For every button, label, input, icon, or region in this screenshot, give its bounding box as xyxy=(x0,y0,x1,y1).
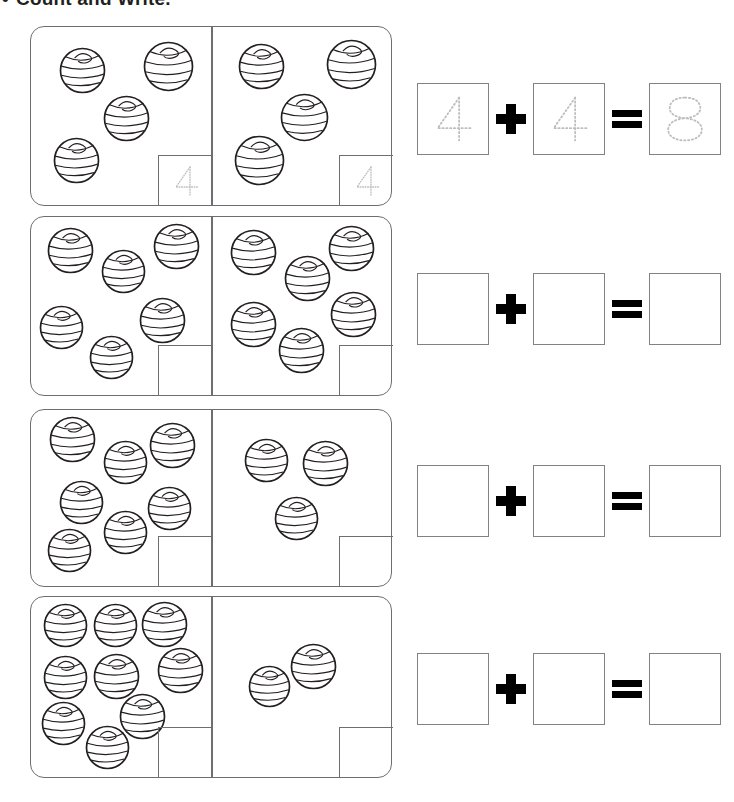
domino-count-input-left[interactable] xyxy=(158,345,212,395)
ball-icon xyxy=(103,440,148,485)
addend-2-input[interactable] xyxy=(533,83,605,155)
domino-half-right xyxy=(212,597,393,777)
ball-icon xyxy=(278,327,325,374)
addend-2-input[interactable] xyxy=(533,465,605,537)
ball-icon xyxy=(284,255,331,302)
ball-icon xyxy=(326,39,377,90)
domino-half-left xyxy=(31,217,212,395)
sum-input[interactable] xyxy=(649,273,721,345)
ball-icon xyxy=(53,137,100,184)
domino-half-right xyxy=(212,217,393,395)
ball-icon xyxy=(302,440,349,487)
ball-icon xyxy=(101,249,146,294)
ball-icon xyxy=(330,291,377,338)
ball-icon xyxy=(59,480,104,525)
domino-card xyxy=(30,409,392,587)
equals-icon xyxy=(605,490,649,512)
domino-card xyxy=(30,26,392,206)
ball-icon xyxy=(244,438,289,483)
domino-half-right xyxy=(212,410,393,586)
ball-icon xyxy=(147,486,192,531)
addition-equation xyxy=(417,653,721,725)
domino-divider xyxy=(211,27,213,205)
plus-icon xyxy=(489,674,533,704)
ball-icon xyxy=(43,603,88,648)
domino-divider xyxy=(211,597,213,777)
addend-2-input[interactable] xyxy=(533,653,605,725)
ball-icon xyxy=(230,301,277,348)
ball-icon xyxy=(234,135,285,186)
domino-half-left xyxy=(31,27,212,205)
ball-icon xyxy=(49,416,96,463)
ball-icon xyxy=(149,422,196,469)
ball-icon xyxy=(103,510,148,555)
equals-icon xyxy=(605,298,649,320)
plus-icon xyxy=(489,486,533,516)
ball-icon xyxy=(248,665,291,708)
domino-count-input-left[interactable] xyxy=(158,155,212,205)
ball-icon xyxy=(47,227,94,274)
ball-icon xyxy=(39,305,84,350)
ball-icon xyxy=(47,528,92,573)
ball-icon xyxy=(157,647,204,694)
domino-half-left xyxy=(31,597,212,777)
ball-icon xyxy=(328,225,375,272)
domino-card xyxy=(30,216,392,396)
domino-count-input-left[interactable] xyxy=(158,536,212,586)
domino-half-right xyxy=(212,27,393,205)
ball-icon xyxy=(93,603,138,648)
plus-icon xyxy=(489,294,533,324)
ball-icon xyxy=(230,229,277,276)
ball-icon xyxy=(89,335,134,380)
ball-icon xyxy=(139,297,186,344)
addend-1-input[interactable] xyxy=(417,465,489,537)
ball-icon xyxy=(85,725,130,770)
domino-half-left xyxy=(31,410,212,586)
addend-1-input[interactable] xyxy=(417,83,489,155)
ball-icon xyxy=(153,223,200,270)
equals-icon xyxy=(605,678,649,700)
ball-icon xyxy=(103,95,150,142)
domino-divider xyxy=(211,217,213,395)
ball-icon xyxy=(238,43,285,90)
ball-icon xyxy=(43,655,88,700)
equals-icon xyxy=(605,108,649,130)
domino-card xyxy=(30,596,392,778)
domino-count-input-left[interactable] xyxy=(158,727,212,777)
ball-icon xyxy=(59,47,106,94)
domino-count-input-right[interactable] xyxy=(339,727,393,777)
sum-input[interactable] xyxy=(649,83,721,155)
ball-icon xyxy=(274,496,319,541)
domino-count-input-right[interactable] xyxy=(339,155,393,205)
ball-icon xyxy=(143,41,194,92)
domino-count-input-right[interactable] xyxy=(339,536,393,586)
plus-icon xyxy=(489,104,533,134)
ball-icon xyxy=(290,643,337,690)
title-bullet: • xyxy=(2,0,9,10)
addend-1-input[interactable] xyxy=(417,273,489,345)
ball-icon xyxy=(280,93,329,142)
addend-2-input[interactable] xyxy=(533,273,605,345)
ball-icon xyxy=(41,701,86,746)
ball-icon xyxy=(141,601,188,648)
addition-equation xyxy=(417,83,721,155)
addition-equation xyxy=(417,273,721,345)
sum-input[interactable] xyxy=(649,465,721,537)
addition-equation xyxy=(417,465,721,537)
addend-1-input[interactable] xyxy=(417,653,489,725)
sum-input[interactable] xyxy=(649,653,721,725)
domino-divider xyxy=(211,410,213,586)
page-title: Count and Write. xyxy=(16,0,171,10)
domino-count-input-right[interactable] xyxy=(339,345,393,395)
